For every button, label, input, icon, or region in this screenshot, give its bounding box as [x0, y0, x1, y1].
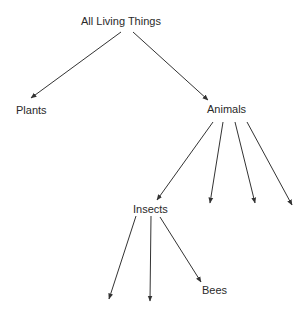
- arrow-edge-insects-leaf7: [150, 216, 151, 301]
- tree-diagram: All Living Things Plants Animals Insects…: [0, 0, 307, 312]
- node-bees: Bees: [202, 285, 227, 296]
- arrow-edge-animals-leaf4: [235, 122, 255, 203]
- edges-layer: [0, 0, 307, 312]
- arrow-edge-animals-leaf5: [247, 122, 292, 205]
- node-plants: Plants: [16, 105, 47, 116]
- arrow-edge-root-plants: [31, 32, 121, 98]
- arrow-edge-root-animals: [133, 32, 208, 100]
- arrow-edge-animals-leaf3: [210, 122, 223, 203]
- node-all-living-things: All Living Things: [81, 16, 161, 27]
- node-insects: Insects: [133, 204, 168, 215]
- arrow-edge-animals-insects: [157, 122, 213, 200]
- node-animals: Animals: [207, 104, 246, 115]
- arrow-edge-insects-bees: [160, 217, 201, 282]
- arrow-edge-insects-leaf6: [109, 216, 136, 299]
